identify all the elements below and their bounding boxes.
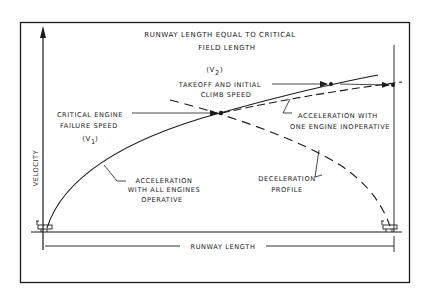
engine-out-leader <box>283 99 292 113</box>
v2-point <box>329 82 333 86</box>
endpoint-leader-arrow <box>340 84 389 85</box>
v1-point <box>219 111 223 115</box>
v2-symbol: (V 2 ) <box>206 66 223 77</box>
takeoff-field-length-diagram: RUNWAY LENGTH EQUAL TO CRITICAL FIELD LE… <box>0 0 427 300</box>
svg-text:(V: (V <box>206 66 215 74</box>
v2-label-line2: CLIMB SPEED <box>201 91 252 99</box>
engine-out-label-line2: ONE ENGINE INOPERATIVE <box>290 123 390 131</box>
engine-out-endpoint <box>391 83 395 87</box>
all-engines-label-line3: OPERATIVE <box>141 196 183 204</box>
v1-symbol: (V 1 ) <box>82 135 98 146</box>
deceleration-leader <box>315 150 322 177</box>
v1-label-line2: FAILURE SPEED <box>60 122 118 130</box>
svg-text:): ) <box>95 135 98 143</box>
v2-label-line1: TAKEOFF AND INITIAL <box>178 81 261 89</box>
engine-out-label-line1: ACCELERATION WITH <box>298 112 378 120</box>
all-engines-leader <box>104 165 126 181</box>
all-engines-label-line1: ACCELERATION <box>135 177 192 185</box>
velocity-axis-arrow-icon <box>40 26 46 38</box>
svg-text:(V: (V <box>82 135 91 143</box>
v1-label-line1: CRITICAL ENGINE <box>57 111 123 119</box>
all-engines-label-line2: WITH ALL ENGINES <box>128 186 201 194</box>
diagram-title-line1: RUNWAY LENGTH EQUAL TO CRITICAL <box>144 31 295 39</box>
aircraft-start-icon <box>36 221 52 232</box>
deceleration-label-line2: PROFILE <box>271 186 303 194</box>
x-axis-label: RUNWAY LENGTH <box>190 243 255 251</box>
deceleration-label-line1: DECELERATION <box>258 175 315 183</box>
diagram-title-line2: FIELD LENGTH <box>198 44 256 52</box>
y-axis-label: VELOCITY <box>32 149 40 186</box>
svg-text:): ) <box>220 66 223 74</box>
